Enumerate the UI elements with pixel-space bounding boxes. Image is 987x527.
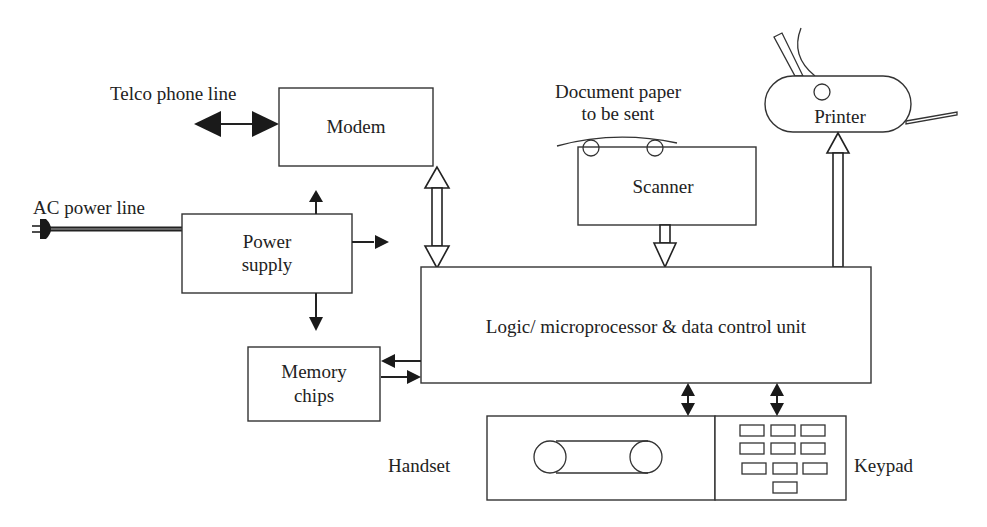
arrow-down-icon [681,403,695,416]
scanner-label: Scanner [632,176,694,197]
arrow-up-icon [309,190,323,202]
logic-unit-block: Logic/ microprocessor & data control uni… [421,267,871,383]
telco-phone-line: Telco phone line [110,83,279,137]
memory-box [248,347,380,421]
paper-curve-icon [798,28,815,76]
ac-power-line: AC power line [32,197,182,239]
modem-label: Modem [326,116,385,137]
handset-keypad-block: Handset Keypad [388,383,914,500]
printer-label: Printer [814,106,866,127]
handset-box [487,416,715,500]
logic-unit-label: Logic/ microprocessor & data control uni… [486,316,807,337]
power-supply-label-1: Power [243,231,292,252]
document-label-2: to be sent [582,103,656,124]
arrow-up-icon [681,383,695,396]
hollow-arrowhead-down-icon [654,243,676,267]
document-label-1: Document paper [555,81,682,102]
keypad-box [715,416,846,500]
keypad-label: Keypad [854,455,914,476]
arrow-left-icon [381,354,395,368]
arrow-down-icon [770,403,784,416]
power-supply-label-2: supply [242,254,293,275]
scanner-bus-shaft [660,225,670,243]
arrow-right-icon [407,370,421,384]
fax-block-diagram: Telco phone line Modem AC power line Pow… [0,0,987,527]
paper-out-icon [906,112,957,124]
telco-label: Telco phone line [110,83,236,104]
arrow-up-icon [770,383,784,396]
arrow-down-icon [309,317,323,331]
modem-logic-bus [425,167,449,268]
printer-block: Printer [765,28,957,267]
arrow-right-icon [375,235,389,249]
memory-block: Memory chips [248,347,421,421]
memory-label-2: chips [294,385,334,406]
ac-power-label: AC power line [33,197,145,218]
modem-block: Modem [279,88,433,166]
handset-label: Handset [388,455,451,476]
hollow-arrowhead-up-icon [425,167,449,188]
arrowhead-left-icon [194,111,221,137]
scanner-block: Document paper to be sent Scanner [555,81,756,267]
hollow-arrowhead-up-icon [827,133,849,153]
power-supply-block: Power supply [182,190,389,331]
hollow-arrowhead-down-icon [425,246,449,268]
printer-bus-shaft [833,153,843,267]
memory-label-1: Memory [281,361,347,382]
plug-icon [40,219,51,239]
arrowhead-right-icon [252,111,279,137]
bus-shaft [432,188,442,246]
